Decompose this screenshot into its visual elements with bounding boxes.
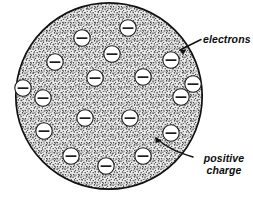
electron [163, 52, 179, 68]
electron [173, 89, 189, 105]
positive-charge-label-line-2: charge [196, 165, 252, 177]
electron [104, 46, 120, 62]
electrons-label: electrons [203, 34, 251, 46]
plum-pudding-diagram: electrons positive charge [0, 0, 253, 197]
electron [98, 158, 114, 174]
electron [135, 69, 151, 85]
electron [63, 148, 79, 164]
electron [122, 110, 138, 126]
electron [87, 70, 103, 86]
positive-charge-label: positive charge [196, 153, 252, 176]
positive-charge-label-line-1: positive [196, 153, 252, 165]
electron [120, 20, 136, 36]
electron [135, 148, 151, 164]
electron [77, 110, 93, 126]
electron [35, 90, 51, 106]
electron [36, 123, 52, 139]
electron [185, 76, 201, 92]
electron [163, 125, 179, 141]
electron [74, 30, 90, 46]
electron [47, 54, 63, 70]
electron [15, 80, 31, 96]
